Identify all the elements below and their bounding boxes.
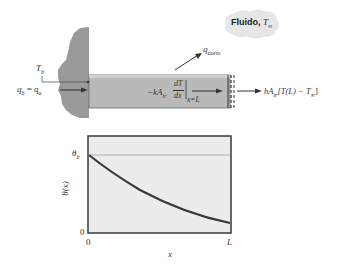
base-heat-eq-sub: a [39, 90, 42, 96]
x-tick-L: L [227, 238, 232, 247]
base-heat-eq: = q [25, 84, 39, 94]
fluid-label: Fluido, T∞ [231, 18, 272, 29]
y-axis-label: θ(x) [61, 181, 70, 195]
wall-shape [58, 27, 89, 118]
tip-conduction-numerator: dT [174, 80, 182, 88]
tip-conduction-denominator: dx [174, 92, 182, 100]
fluid-temp-sub: ∞ [268, 23, 272, 29]
tip-convection-arrowhead [255, 89, 262, 94]
diagram-canvas [0, 0, 345, 266]
base-temp-dot [87, 81, 89, 83]
y-tick-theta-b: θb [72, 149, 79, 160]
conv-arrow [175, 55, 198, 70]
tip-convection-close: ] [315, 86, 318, 96]
base-heat-label: qb = qa [17, 85, 42, 96]
base-temp-sub: b [41, 69, 44, 75]
q-conv-label: qconv [203, 45, 220, 56]
fin-highlight [89, 75, 230, 78]
tip-conduction-expr: −kAtr [147, 88, 167, 99]
tip-convection-body: [T(L) − T [277, 86, 310, 96]
tip-conduction-prefix: −kA [147, 87, 163, 97]
tip-conduction-eval: x=L [187, 96, 200, 104]
base-temp-label: Tb [36, 64, 44, 75]
tip-convection-expr: hAtr[T(L) − T∞] [264, 87, 318, 98]
y-tick-zero: 0 [80, 228, 85, 237]
x-axis-label: x [168, 250, 172, 259]
x-tick-zero: 0 [86, 238, 91, 247]
tip-conduction-sub: tr [163, 93, 167, 99]
q-conv-sub: conv [208, 50, 221, 56]
fluid-label-text: Fluido, [231, 17, 261, 27]
